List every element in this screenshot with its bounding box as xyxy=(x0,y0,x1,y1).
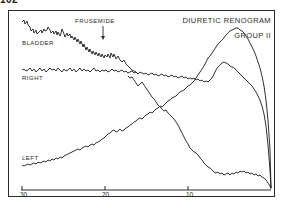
chart-subtitle: GROUP II xyxy=(234,31,271,40)
bladder-tail-trace xyxy=(210,168,271,189)
right-tail-trace xyxy=(208,62,271,188)
frusemide-label: FRUSEMIDE xyxy=(75,18,115,24)
bladder-label: BLADDER xyxy=(22,40,54,46)
right-label: RIGHT xyxy=(22,75,43,81)
chart-title: DIURETIC RENOGRAM xyxy=(183,16,271,25)
right-descending-trace xyxy=(128,76,210,168)
left-trace xyxy=(22,28,271,188)
right-trace xyxy=(22,68,208,82)
left-label: LEFT xyxy=(22,155,39,161)
x-tick-label-20: 20 xyxy=(102,191,109,198)
bladder-trace xyxy=(22,20,138,74)
x-tick-label-10: 10 xyxy=(186,191,193,198)
frusemide-arrow-head-icon xyxy=(101,36,105,40)
x-tick-label-30: 30 xyxy=(20,191,27,198)
